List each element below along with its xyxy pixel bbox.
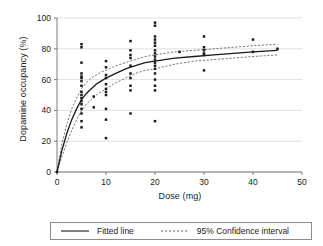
svg-text:60: 60 — [42, 75, 52, 85]
svg-text:0: 0 — [46, 167, 51, 177]
svg-text:40: 40 — [248, 177, 258, 187]
scatter-plot-svg: 02040608010001020304050 — [0, 0, 323, 210]
svg-text:40: 40 — [42, 105, 52, 115]
fitted-line-path — [57, 50, 278, 172]
solid-line-icon — [60, 227, 90, 235]
axis-ticks: 02040608010001020304050 — [37, 13, 307, 187]
legend-label-fitted-line: Fitted line — [97, 226, 134, 236]
legend-item-confidence-interval: 95% Confidence interval — [160, 223, 289, 239]
svg-text:80: 80 — [42, 44, 52, 54]
svg-text:20: 20 — [150, 177, 160, 187]
svg-text:0: 0 — [55, 177, 60, 187]
svg-text:30: 30 — [199, 177, 209, 187]
svg-text:50: 50 — [297, 177, 307, 187]
svg-text:20: 20 — [42, 136, 52, 146]
legend-item-fitted-line: Fitted line — [60, 223, 134, 239]
scatter-points — [56, 21, 279, 173]
legend-label-confidence-interval: 95% Confidence interval — [197, 226, 289, 236]
svg-text:10: 10 — [101, 177, 111, 187]
confidence-interval-bands — [57, 44, 278, 172]
gridlines — [57, 18, 302, 172]
chart-legend: Fitted line 95% Confidence interval — [50, 222, 312, 240]
dashed-line-icon — [160, 227, 190, 235]
svg-text:100: 100 — [37, 13, 51, 23]
y-axis-label: Dopamine occupancy (%) — [18, 19, 28, 159]
figure-container: 02040608010001020304050 Dopamine occupan… — [0, 0, 323, 246]
x-axis-label: Dose (mg) — [57, 191, 303, 201]
axes — [57, 18, 302, 172]
plot-area: 02040608010001020304050 Dopamine occupan… — [0, 0, 323, 210]
